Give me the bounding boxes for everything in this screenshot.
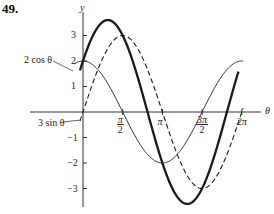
x-tick-label: 2π	[237, 116, 247, 127]
x-tick-label: 3π2	[196, 115, 208, 134]
y-tick-1: 1	[71, 80, 76, 91]
y-tick-neg1: −1	[67, 132, 78, 143]
y-tick-3: 3	[71, 29, 76, 40]
cos-leader-line	[53, 61, 73, 71]
x-tick-label: π	[157, 116, 162, 127]
x-tick-label: π2	[117, 115, 124, 134]
x-axis-label: θ	[265, 105, 270, 116]
y-tick-neg2: −2	[67, 157, 78, 168]
y-axis-label: y	[80, 2, 84, 13]
sin-leader-line	[63, 120, 81, 122]
cos-curve-label: 2 cos θ	[24, 54, 52, 65]
axes	[30, 12, 261, 207]
graph	[0, 0, 274, 214]
sin-curve-label: 3 sin θ	[38, 117, 64, 128]
y-tick-2: 2	[71, 55, 76, 66]
y-tick-neg3: −3	[67, 183, 78, 194]
